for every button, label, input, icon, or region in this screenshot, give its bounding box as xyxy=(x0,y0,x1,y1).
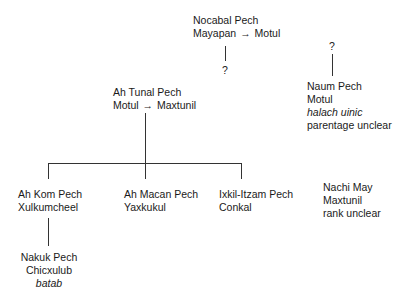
uncertain-mark: ? xyxy=(222,64,228,76)
node-place: Chicxulub xyxy=(8,264,90,277)
connector-line xyxy=(241,163,242,179)
node-naum-pech: Naum Pech Motul halach uinic parentage u… xyxy=(307,80,392,132)
arrow-right-icon: → xyxy=(240,27,251,39)
arrow-right-icon: → xyxy=(143,99,154,111)
connector-line xyxy=(48,218,49,246)
uncertain-mark: ? xyxy=(329,40,335,52)
node-note: rank unclear xyxy=(323,207,381,220)
node-nachi-may: Nachi May Maxtunil rank unclear xyxy=(323,181,381,220)
node-place: Maxtunil xyxy=(323,194,381,207)
connector-line xyxy=(145,113,146,163)
node-name: Nakuk Pech xyxy=(8,251,90,264)
connector-line xyxy=(332,54,333,76)
node-place: Motul → Maxtunil xyxy=(113,99,196,112)
node-nocabal-pech: Nocabal Pech Mayapan → Motul xyxy=(193,14,280,40)
node-place: Mayapan → Motul xyxy=(193,27,280,40)
connector-line xyxy=(225,46,226,61)
node-ixkil-itzam-pech: Ixkil-Itzam Pech Conkal xyxy=(219,188,293,214)
node-place: Motul xyxy=(307,93,392,106)
node-name: Nocabal Pech xyxy=(193,14,280,27)
node-name: Ah Kom Pech xyxy=(18,188,82,201)
node-name: Naum Pech xyxy=(307,80,392,93)
connector-line xyxy=(48,163,49,179)
node-name: Ixkil-Itzam Pech xyxy=(219,188,293,201)
node-place: Xulkumcheel xyxy=(18,201,82,214)
node-nakuk-pech: Nakuk Pech Chicxulub batab xyxy=(8,251,90,290)
node-name: Ah Macan Pech xyxy=(124,188,198,201)
node-ah-kom-pech: Ah Kom Pech Xulkumcheel xyxy=(18,188,82,214)
node-title: batab xyxy=(8,277,90,290)
node-place: Yaxkukul xyxy=(124,201,198,214)
node-title: halach uinic xyxy=(307,106,392,119)
node-name: Nachi May xyxy=(323,181,381,194)
node-ah-tunal-pech: Ah Tunal Pech Motul → Maxtunil xyxy=(113,86,196,112)
node-note: parentage unclear xyxy=(307,119,392,132)
node-ah-macan-pech: Ah Macan Pech Yaxkukul xyxy=(124,188,198,214)
node-place: Conkal xyxy=(219,201,293,214)
connector-line xyxy=(145,163,146,179)
node-name: Ah Tunal Pech xyxy=(113,86,196,99)
